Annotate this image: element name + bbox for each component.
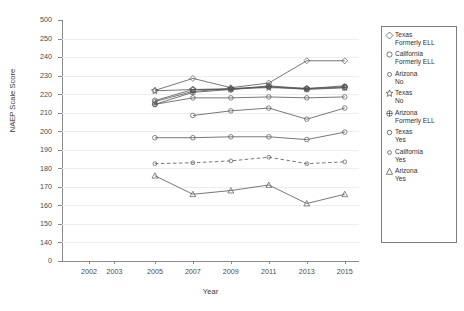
x-tick-mark	[269, 261, 270, 264]
series-texas-yes-lower	[153, 130, 347, 142]
y-tick-label: 200	[18, 128, 52, 135]
y-tick-label: 170	[18, 183, 52, 190]
data-point-asterisk-circle	[304, 87, 309, 92]
circle-open-icon	[385, 128, 394, 137]
circle-small-icon	[385, 70, 394, 79]
series-layer	[62, 20, 359, 261]
data-point-triangle	[342, 191, 348, 196]
series-arizona-formerly-ell-lower	[191, 106, 347, 122]
data-point-asterisk-circle	[342, 85, 347, 90]
legend-item-label: Arizona Formerly ELL	[394, 109, 435, 124]
series-texas-yes	[153, 95, 347, 107]
legend-item-label: Texas Formerly ELL	[394, 31, 435, 46]
x-tick-mark	[231, 261, 232, 264]
y-tick-label: 500	[18, 16, 52, 23]
legend-item-arizona-no[interactable]: Arizona No	[385, 70, 454, 85]
y-tick-label: 190	[18, 146, 52, 153]
asterisk-circle-icon	[385, 109, 394, 118]
y-tick-label: 150	[18, 220, 52, 227]
x-tick-label: 2011	[249, 268, 289, 275]
legend-item-label: Arizona Yes	[394, 167, 417, 182]
legend-item-texas-formerly-ell[interactable]: Texas Formerly ELL	[385, 31, 454, 46]
legend-item-label: Texas Yes	[394, 128, 412, 143]
triangle-icon	[385, 167, 394, 176]
y-tick-label: 140	[18, 239, 52, 246]
x-tick-label: 2005	[135, 268, 175, 275]
legend-item-label: California Formerly ELL	[394, 50, 435, 65]
x-tick-label: 2015	[325, 268, 365, 275]
legend-item-label: California Yes	[394, 148, 423, 163]
series-california-formerly-ell	[152, 83, 347, 103]
y-tick-label: 250	[18, 35, 52, 42]
circle-open-small-icon	[385, 148, 394, 157]
x-tick-mark	[89, 261, 90, 264]
series-california-yes	[153, 155, 347, 165]
circle-icon	[385, 50, 394, 59]
chart-container: NAEP Scale Score 50025024023022021020019…	[0, 0, 464, 311]
y-tick-label: 0	[18, 257, 52, 264]
y-axis-title: NAEP Scale Score	[8, 41, 17, 161]
series-line	[155, 61, 345, 91]
data-point-circle-open	[342, 106, 347, 111]
data-point-asterisk-circle	[266, 84, 271, 89]
y-tick-label: 210	[18, 109, 52, 116]
y-tick-label: 230	[18, 72, 52, 79]
data-point-triangle	[152, 173, 158, 178]
series-line	[155, 87, 345, 105]
series-line	[155, 157, 345, 163]
x-axis-title: Year	[62, 287, 359, 296]
y-tick-label: 180	[18, 165, 52, 172]
star-icon	[385, 89, 394, 98]
series-arizona-no	[153, 84, 347, 104]
x-tick-mark	[114, 261, 115, 264]
y-tick-label: 160	[18, 202, 52, 209]
plot-area	[62, 20, 359, 261]
legend-item-label: Arizona No	[394, 70, 417, 85]
y-tick-label: 220	[18, 91, 52, 98]
x-tick-label: 2009	[211, 268, 251, 275]
data-point-asterisk-circle	[190, 90, 195, 95]
x-tick-mark	[155, 261, 156, 264]
series-line	[155, 97, 345, 104]
legend-item-texas-no[interactable]: Texas No	[385, 89, 454, 104]
legend-item-arizona-yes[interactable]: Arizona Yes	[385, 167, 454, 182]
y-tick-mark	[58, 261, 62, 262]
series-line	[155, 132, 345, 139]
x-axis-line	[62, 261, 359, 262]
x-tick-mark	[307, 261, 308, 264]
x-tick-label: 2007	[173, 268, 213, 275]
legend-item-arizona-formerly-ell[interactable]: Arizona Formerly ELL	[385, 109, 454, 124]
series-arizona-yes	[152, 173, 348, 206]
x-tick-mark	[345, 261, 346, 264]
series-line	[155, 176, 345, 204]
diamond-icon	[385, 31, 394, 40]
series-line	[193, 108, 345, 119]
x-tick-label: 2003	[94, 268, 134, 275]
x-tick-mark	[193, 261, 194, 264]
legend-item-label: Texas No	[394, 89, 412, 104]
legend-item-texas-yes[interactable]: Texas Yes	[385, 128, 454, 143]
data-point-asterisk-circle	[228, 87, 233, 92]
legend-item-california-yes[interactable]: California Yes	[385, 148, 454, 163]
chart-legend: Texas Formerly ELLCalifornia Formerly EL…	[381, 26, 457, 243]
y-tick-label: 240	[18, 53, 52, 60]
x-tick-label: 2013	[287, 268, 327, 275]
legend-item-california-formerly-ell[interactable]: California Formerly ELL	[385, 50, 454, 65]
